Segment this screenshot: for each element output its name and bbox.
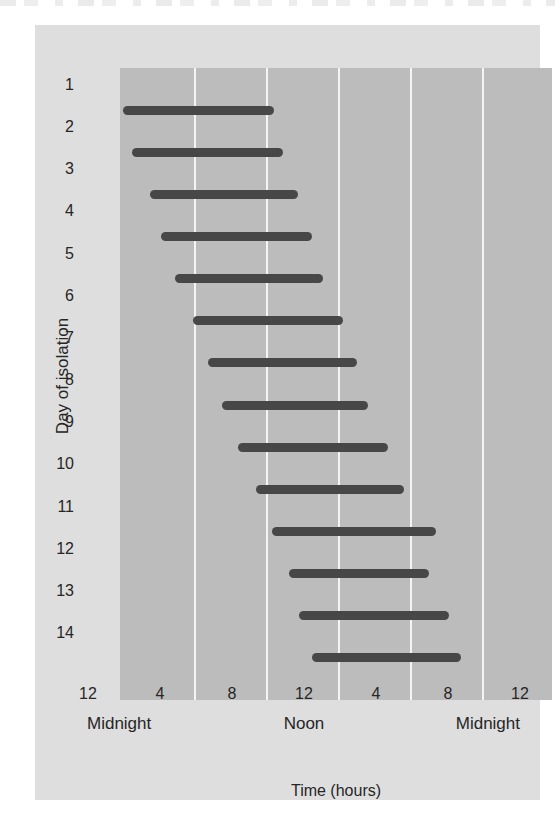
sleep-bar-day-3 bbox=[150, 190, 298, 199]
sleep-bar-day-14 bbox=[312, 653, 461, 662]
x-tick-label-hour-8: 8 bbox=[210, 684, 254, 704]
figure-card: Day of isolation 1234567891011121314 124… bbox=[35, 25, 540, 800]
x-sublabel-midnight-hour-24: Midnight bbox=[400, 714, 520, 734]
sleep-bar-day-12 bbox=[289, 569, 429, 578]
y-tick-label-day-13: 13 bbox=[34, 581, 74, 601]
x-tick-label-hour-12: 12 bbox=[282, 684, 326, 704]
y-tick-label-day-9: 9 bbox=[34, 412, 74, 432]
y-tick-label-day-7: 7 bbox=[34, 328, 74, 348]
sleep-bar-day-13 bbox=[299, 611, 448, 620]
gridline-hour-12 bbox=[338, 68, 340, 700]
x-sublabel-noon-hour-12: Noon bbox=[244, 714, 364, 734]
gridline-hour-8 bbox=[266, 68, 268, 700]
sleep-bar-day-10 bbox=[256, 485, 404, 494]
y-tick-label-day-11: 11 bbox=[34, 497, 74, 517]
gridline-hour-20 bbox=[482, 68, 484, 700]
y-tick-label-day-2: 2 bbox=[34, 117, 74, 137]
x-tick-label-hour-4: 4 bbox=[138, 684, 182, 704]
x-tick-label-hour-0: 12 bbox=[66, 684, 110, 704]
y-tick-label-day-12: 12 bbox=[34, 539, 74, 559]
figure-page: Day of isolation 1234567891011121314 124… bbox=[0, 0, 555, 820]
y-tick-label-day-3: 3 bbox=[34, 159, 74, 179]
sleep-bar-day-8 bbox=[222, 401, 368, 410]
x-axis-title: Time (hours) bbox=[236, 781, 436, 801]
sleep-bar-day-7 bbox=[208, 358, 357, 367]
y-tick-label-day-10: 10 bbox=[34, 454, 74, 474]
plot-area bbox=[120, 68, 552, 700]
sleep-bar-day-1 bbox=[123, 106, 274, 115]
cropped-content-remnant bbox=[0, 0, 555, 6]
sleep-bar-day-2 bbox=[132, 148, 283, 157]
sleep-bar-day-4 bbox=[161, 232, 312, 241]
sleep-bar-day-5 bbox=[175, 274, 323, 283]
sleep-bar-day-6 bbox=[193, 316, 342, 325]
x-tick-label-hour-16: 4 bbox=[354, 684, 398, 704]
y-tick-label-day-5: 5 bbox=[34, 244, 74, 264]
y-tick-label-day-8: 8 bbox=[34, 370, 74, 390]
y-tick-label-day-1: 1 bbox=[34, 75, 74, 95]
y-tick-label-day-4: 4 bbox=[34, 201, 74, 221]
gridline-hour-16 bbox=[410, 68, 412, 700]
x-tick-label-hour-24: 12 bbox=[498, 684, 542, 704]
sleep-bar-day-9 bbox=[238, 443, 387, 452]
gridline-hour-4 bbox=[194, 68, 196, 700]
sleep-bar-day-11 bbox=[272, 527, 436, 536]
x-sublabel-midnight-hour-0: Midnight bbox=[87, 714, 151, 734]
y-tick-label-day-6: 6 bbox=[34, 286, 74, 306]
x-tick-label-hour-20: 8 bbox=[426, 684, 470, 704]
y-tick-label-day-14: 14 bbox=[34, 623, 74, 643]
